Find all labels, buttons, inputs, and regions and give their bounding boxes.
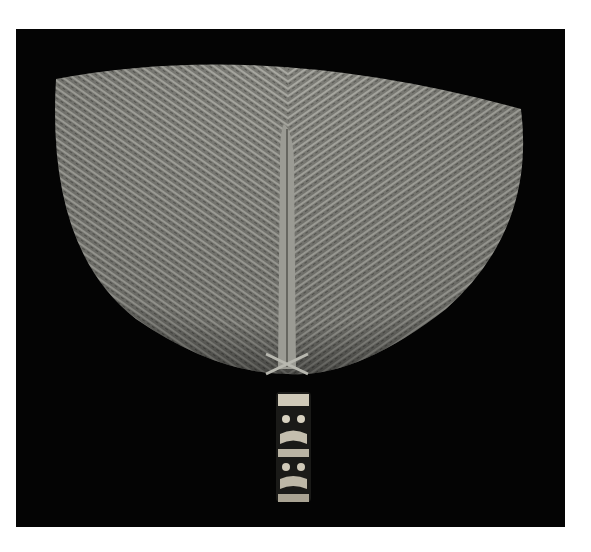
photograph — [16, 29, 565, 527]
carved-handle — [276, 392, 311, 502]
woven-fan-illustration — [16, 29, 565, 527]
